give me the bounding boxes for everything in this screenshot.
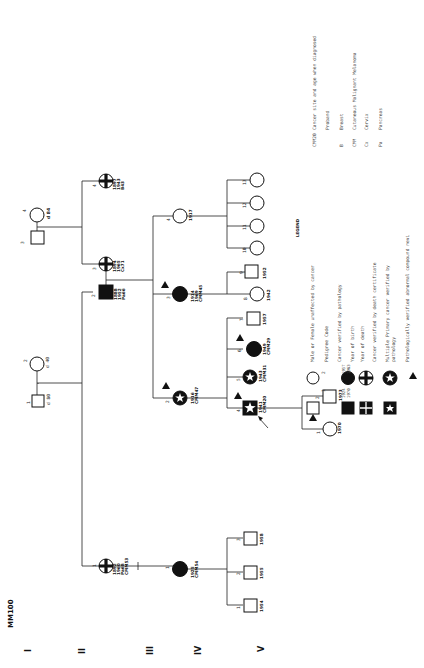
svg-text:2: 2 [321, 371, 326, 374]
legend-multiple-primary-line2: pathology [391, 337, 396, 362]
svg-text:Cutaneous Malignant Melanoma: Cutaneous Malignant Melanoma [352, 52, 357, 130]
svg-text:1957: 1957 [262, 313, 267, 325]
gen-label-I: I [24, 649, 33, 652]
svg-text:10: 10 [242, 247, 247, 253]
svg-text:2: 2 [315, 396, 320, 399]
svg-text:Cervix: Cervix [364, 113, 369, 130]
svg-text:1: 1 [165, 566, 170, 569]
legend-cross-circle [359, 371, 373, 385]
svg-text:1: 1 [236, 606, 241, 609]
svg-text:Cancer verified by pathology: Cancer verified by pathology [337, 284, 342, 362]
nevi-triangle-icon [162, 382, 170, 389]
person-IV-10: 10 [242, 241, 264, 255]
svg-text:1955: 1955 [259, 567, 264, 579]
svg-text:3: 3 [92, 267, 97, 270]
person-I-2: 2 d 40 [23, 357, 50, 371]
svg-text:1970: 1970 [337, 422, 342, 434]
svg-text:1: 1 [92, 564, 97, 567]
legend: LEGEND 1 2 1924 1970 1957 1963 Male or F… [295, 36, 417, 414]
person-IV-9: 9 1952 [239, 265, 267, 279]
nevi-triangle-icon [236, 334, 244, 341]
svg-text:3: 3 [20, 241, 25, 244]
svg-text:CMM53: CMM53 [124, 558, 129, 575]
svg-text:1970: 1970 [346, 388, 351, 398]
svg-text:5: 5 [236, 378, 241, 381]
gen-label-IV: IV [194, 645, 203, 655]
svg-text:CMM31: CMM31 [262, 365, 267, 382]
svg-text:Cx: Cx [364, 141, 369, 147]
svg-text:11: 11 [242, 224, 247, 230]
person-II-4: 4 1897 1943 B43 [92, 174, 125, 190]
svg-text:2: 2 [91, 294, 96, 297]
svg-text:2: 2 [23, 359, 28, 362]
svg-text:d 40: d 40 [45, 357, 50, 368]
gen-label-V: V [257, 645, 266, 652]
svg-text:CMM47: CMM47 [194, 387, 199, 404]
legend-multiple-primary-line1: Multiple Primary cancer verified by [385, 265, 390, 362]
svg-text:d 80: d 80 [46, 394, 51, 405]
svg-text:d 84: d 84 [46, 208, 51, 219]
person-I-4: 4 d 84 [22, 208, 51, 222]
legend-star-square [384, 402, 396, 414]
legend-cross-square [360, 402, 372, 414]
person-IV-3: 3 1958 [236, 532, 264, 545]
person-IV-12: 12 [242, 196, 264, 210]
svg-text:Male or Female unaffected by c: Male or Female unaffected by cancer [310, 265, 315, 362]
generation-labels: I II III IV V MM100 [7, 599, 266, 655]
svg-text:CMM29: CMM29 [266, 338, 271, 355]
svg-text:Pancreas: Pancreas [378, 108, 383, 130]
svg-text:1963: 1963 [346, 364, 351, 374]
pedigree-chart: I II III IV V MM100 1 d 80 2 d 40 3 4 d … [0, 0, 424, 668]
svg-text:Pa: Pa [378, 141, 383, 147]
svg-text:1: 1 [321, 389, 326, 392]
svg-text:1942: 1942 [266, 289, 271, 301]
svg-text:3: 3 [236, 538, 241, 541]
legend-triangle-icon [409, 372, 417, 379]
person-I-3: 3 [20, 231, 44, 244]
svg-text:B43: B43 [120, 181, 125, 190]
person-I-1: 1 d 80 [26, 394, 51, 407]
svg-text:Cx71: Cx71 [120, 260, 125, 272]
svg-text:2: 2 [236, 572, 241, 575]
svg-text:4: 4 [92, 184, 97, 187]
gen-label-III: III [146, 646, 155, 655]
svg-text:7: 7 [239, 318, 244, 321]
person-V-1: 1 1970 [309, 414, 342, 436]
svg-text:CMM54: CMM54 [194, 561, 199, 578]
svg-text:Breast: Breast [339, 113, 344, 130]
svg-text:4: 4 [166, 218, 171, 221]
person-IV-4-proband: 4 1941 CMM20 [234, 392, 267, 415]
person-IV-11: 11 [242, 219, 264, 233]
person-IV-1: 1 1954 [236, 599, 264, 612]
svg-text:1952: 1952 [262, 267, 267, 279]
legend-male-symbol [307, 402, 319, 414]
svg-text:Year of birth: Year of birth [350, 326, 355, 362]
person-III-2: 2 1916 CMM47 [162, 382, 199, 405]
svg-text:1917: 1917 [188, 209, 193, 221]
svg-text:Year of death: Year of death [360, 326, 365, 362]
svg-text:1958: 1958 [259, 533, 264, 545]
svg-text:Proband: Proband [325, 110, 330, 130]
svg-text:6: 6 [237, 349, 242, 352]
svg-text:4: 4 [22, 209, 27, 212]
gen-label-II: II [78, 648, 87, 654]
person-IV-6: 6 1949 CMM29 [236, 334, 271, 357]
svg-text:13: 13 [242, 179, 247, 185]
pedigree-title: MM100 [7, 599, 15, 628]
svg-text:Pedigree Code: Pedigree Code [324, 326, 329, 362]
svg-text:CMM45: CMM45 [198, 285, 203, 302]
svg-text:CMM: CMM [352, 138, 357, 147]
svg-text:Cancer verified by death certi: Cancer verified by death certificate [372, 262, 377, 362]
svg-text:Pathologically verified abnorm: Pathologically verified abnormal compoun… [405, 235, 410, 362]
svg-text:4: 4 [236, 409, 241, 412]
svg-text:Cancer site and age when diagn: Cancer site and age when diagnosed [312, 36, 317, 130]
person-III-3: 3 1914 1969 CMM45 [161, 281, 203, 302]
person-II-2: 2 1888 1952 Pa66 [91, 285, 126, 300]
nevi-triangle-icon [161, 281, 169, 288]
svg-text:B: B [339, 144, 344, 147]
svg-text:1954: 1954 [259, 600, 264, 612]
nevi-triangle-icon [234, 392, 242, 399]
svg-text:2: 2 [165, 400, 170, 403]
person-IV-13: 13 [242, 173, 264, 187]
svg-text:1: 1 [316, 431, 321, 434]
